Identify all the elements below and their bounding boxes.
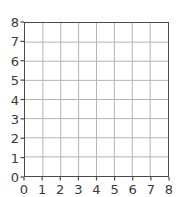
x-tick-label: 2 <box>51 183 69 196</box>
y-tick-label: 7 <box>3 35 19 48</box>
y-tick-label: 5 <box>3 74 19 87</box>
y-tick-label: 2 <box>3 132 19 145</box>
x-tick-label: 3 <box>69 183 87 196</box>
y-tick-label: 8 <box>3 16 19 29</box>
x-tick-label: 4 <box>88 183 106 196</box>
x-tick-label: 1 <box>33 183 51 196</box>
x-tick-label: 7 <box>142 183 160 196</box>
x-tick-label: 6 <box>124 183 142 196</box>
y-tick-label: 0 <box>3 171 19 184</box>
y-tick-label: 6 <box>3 55 19 68</box>
y-tick-label: 3 <box>3 113 19 126</box>
grid-lines <box>25 23 168 176</box>
y-tick-label: 1 <box>3 152 19 165</box>
coordinate-grid-chart: 012345678 012345678 <box>0 0 184 197</box>
y-tick-label: 4 <box>3 94 19 107</box>
plot-area <box>24 22 169 177</box>
x-tick-label: 5 <box>106 183 124 196</box>
x-tick-label: 8 <box>160 183 178 196</box>
